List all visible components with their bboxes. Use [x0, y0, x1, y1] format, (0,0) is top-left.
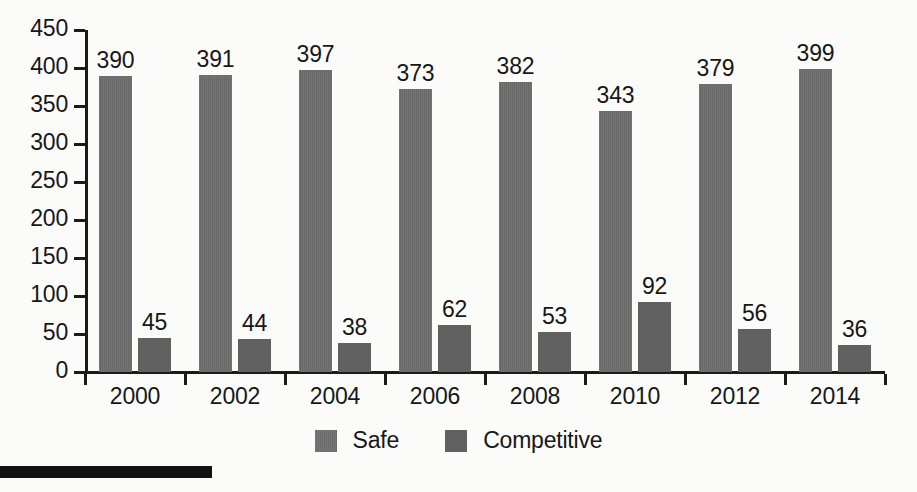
- x-axis-tick-label: 2010: [585, 383, 685, 410]
- x-axis-tick-label: 2008: [485, 383, 585, 410]
- y-axis-tick-label: 350: [0, 91, 68, 118]
- bar-value-label: 379: [685, 55, 746, 82]
- x-axis-tick-label: 2002: [185, 383, 285, 410]
- y-axis-tick-label: 250: [0, 167, 68, 194]
- legend-swatch-competitive: [445, 430, 467, 452]
- y-axis-tick: [74, 105, 85, 108]
- legend-label: Competitive: [483, 427, 602, 454]
- bar-competitive-2000: [138, 338, 171, 372]
- bar-value-label: 38: [324, 314, 385, 341]
- x-axis-tick-label: 2000: [85, 383, 185, 410]
- x-axis-tick-label: 2012: [685, 383, 785, 410]
- bar-value-label: 343: [585, 82, 646, 109]
- y-axis-tick: [74, 143, 85, 146]
- y-axis-tick-label: 100: [0, 281, 68, 308]
- bar-safe-2010: [599, 111, 632, 372]
- bar-value-label: 399: [785, 40, 846, 67]
- legend-item-safe[interactable]: Safe: [315, 427, 400, 454]
- y-axis-tick: [74, 219, 85, 222]
- bar-value-label: 45: [124, 309, 185, 336]
- y-axis-tick-label: 200: [0, 205, 68, 232]
- bar-value-label: 373: [385, 60, 446, 87]
- bar-competitive-2004: [338, 343, 371, 372]
- bar-value-label: 53: [524, 303, 585, 330]
- bar-value-label: 391: [185, 46, 246, 73]
- y-axis-tick-label: 150: [0, 243, 68, 270]
- bar-safe-2012: [699, 84, 732, 372]
- y-axis-tick: [74, 67, 85, 70]
- bar-competitive-2014: [838, 345, 871, 372]
- bar-value-label: 390: [85, 47, 146, 74]
- plot-area: 3904539144397383736238253343923795639936: [85, 30, 885, 372]
- legend-swatch-safe: [315, 430, 337, 452]
- bar-value-label: 92: [624, 273, 685, 300]
- bar-value-label: 56: [724, 300, 785, 327]
- y-axis-tick: [74, 257, 85, 260]
- bar-safe-2006: [399, 89, 432, 372]
- bar-value-label: 382: [485, 53, 546, 80]
- legend-label: Safe: [353, 427, 400, 454]
- y-axis-tick: [74, 29, 85, 32]
- legend-item-competitive[interactable]: Competitive: [445, 427, 602, 454]
- y-axis-tick-label: 50: [0, 319, 68, 346]
- x-axis-tick-label: 2014: [785, 383, 885, 410]
- y-axis-tick-label: 0: [0, 357, 68, 384]
- bar-value-label: 62: [424, 296, 485, 323]
- bar-competitive-2012: [738, 329, 771, 372]
- bar-competitive-2006: [438, 325, 471, 372]
- bar-competitive-2008: [538, 332, 571, 372]
- bar-competitive-2010: [638, 302, 671, 372]
- y-axis-tick-label: 400: [0, 53, 68, 80]
- y-axis-tick: [74, 295, 85, 298]
- y-axis-tick-label: 450: [0, 15, 68, 42]
- bottom-rule: [0, 466, 212, 478]
- bar-value-label: 36: [824, 316, 885, 343]
- bar-value-label: 397: [285, 41, 346, 68]
- y-axis-tick: [74, 333, 85, 336]
- bar-chart: 050100150200250300350400450 200020022004…: [0, 0, 917, 492]
- bar-value-label: 44: [224, 310, 285, 337]
- x-axis-tick-label: 2006: [385, 383, 485, 410]
- chart-legend: SafeCompetitive: [0, 427, 917, 454]
- bar-competitive-2002: [238, 339, 271, 372]
- y-axis-tick: [74, 181, 85, 184]
- y-axis-tick-label: 300: [0, 129, 68, 156]
- x-axis-tick-label: 2004: [285, 383, 385, 410]
